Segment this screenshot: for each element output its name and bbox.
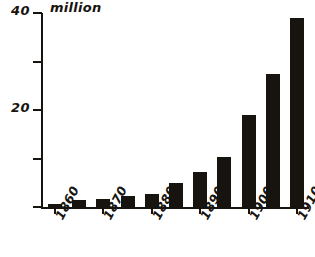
y-axis-tick bbox=[33, 206, 42, 208]
bar bbox=[242, 115, 256, 207]
bar bbox=[290, 18, 304, 207]
y-axis-tick-label: 20 bbox=[11, 100, 30, 115]
bar-chart-figure: million 4020 186018701880189019001910 bbox=[0, 0, 315, 257]
x-axis-labels: 186018701880189019001910 bbox=[43, 209, 309, 257]
plot-area bbox=[43, 13, 309, 207]
y-axis-tick bbox=[33, 158, 42, 160]
y-axis-tick bbox=[33, 61, 42, 63]
y-axis-tick: 40 bbox=[33, 12, 42, 14]
y-axis-tick-label: 40 bbox=[11, 3, 30, 18]
y-axis-tick: 20 bbox=[33, 109, 42, 111]
